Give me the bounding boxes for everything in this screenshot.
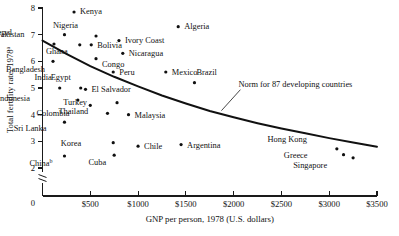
data-point-peru: Peru xyxy=(112,68,136,77)
point-label: Peru xyxy=(119,68,135,77)
x-tick-label-2000: $2000 xyxy=(223,199,244,209)
y-axis-title-superscript: a xyxy=(5,46,11,49)
point-marker xyxy=(335,147,338,150)
point-marker xyxy=(179,143,182,146)
point-marker xyxy=(90,43,93,46)
point-marker xyxy=(79,86,82,89)
point-marker xyxy=(52,42,55,45)
point-marker xyxy=(121,52,124,55)
point-marker xyxy=(342,153,345,156)
data-point-argentina: Argentina xyxy=(179,141,220,150)
point-label: Algeria xyxy=(184,22,209,31)
point-marker xyxy=(84,88,87,91)
point-marker xyxy=(177,25,180,28)
point-marker xyxy=(94,57,97,60)
point-label: Egypt xyxy=(51,73,72,82)
point-label: Nigeria xyxy=(53,21,78,30)
point-marker xyxy=(89,104,92,107)
point-label: Ghana xyxy=(46,47,68,56)
data-point-cuba: Cuba xyxy=(88,154,115,168)
y-tick-label-7: 7 xyxy=(31,30,36,40)
point-label: Mexico xyxy=(172,68,198,77)
data-point-ivory-coast: Ivory Coast xyxy=(117,36,165,45)
point-marker xyxy=(136,145,139,148)
point-marker xyxy=(164,70,167,73)
point-marker xyxy=(63,121,66,124)
point-label: Singapore xyxy=(293,161,327,170)
data-point-bolivia: Bolivia xyxy=(90,41,123,50)
y-tick-label-8: 8 xyxy=(31,3,35,13)
point-marker xyxy=(63,154,66,157)
point-label: Cuba xyxy=(88,158,106,167)
point-marker xyxy=(352,156,355,159)
data-point-nigeria: Nigeria xyxy=(53,21,98,38)
point-marker xyxy=(193,81,196,84)
y-tick-label-4: 4 xyxy=(31,110,36,120)
x-tick-label-3500: $3500 xyxy=(366,199,387,209)
point-label: Turkey xyxy=(63,98,88,107)
point-label: Colombia xyxy=(36,109,69,118)
point-label: Ivory Coast xyxy=(125,36,165,45)
y-axis-title-text: Total fertility rate, 1978a xyxy=(5,46,15,133)
point-marker xyxy=(94,34,97,37)
point-marker xyxy=(58,86,61,89)
norm-curve-annotation: Norm for 87 developing countries xyxy=(238,80,352,89)
point-label: Pakistan xyxy=(0,30,25,39)
data-point-mexico: Mexico xyxy=(164,68,197,77)
norm-annotation-leader-line xyxy=(221,90,240,111)
data-point-el-salvador: El Salvador xyxy=(84,85,131,94)
data-point-kenya: Kenya xyxy=(72,7,102,16)
point-marker xyxy=(106,112,109,115)
point-label: Malaysia xyxy=(135,111,166,120)
point-label: Argentina xyxy=(187,141,221,150)
point-label: Nicaragua xyxy=(129,49,164,58)
data-point-korea: Korea xyxy=(61,139,115,148)
point-label: Chile xyxy=(144,142,162,151)
chart-canvas: 23456780Total fertility rate, 1978a$500$… xyxy=(0,0,399,236)
point-marker xyxy=(112,141,115,144)
point-marker xyxy=(127,113,130,116)
data-point-malaysia: Malaysia xyxy=(127,111,166,120)
y-tick-label-5: 5 xyxy=(31,83,35,93)
point-marker xyxy=(51,60,54,63)
point-label: Kenya xyxy=(80,7,102,16)
point-label: Indonesia xyxy=(0,94,30,103)
point-marker xyxy=(63,33,66,36)
y-axis-origin-label: 0 xyxy=(31,198,35,208)
point-label-superscript: b xyxy=(49,158,52,164)
x-tick-label-1000: $1000 xyxy=(127,199,148,209)
data-point-china: Chinab xyxy=(29,154,66,168)
data-point-chile: Chile xyxy=(136,142,162,151)
point-label: Chinab xyxy=(29,158,52,168)
point-label: Brazil xyxy=(196,68,217,77)
point-label: India xyxy=(34,73,51,82)
data-point-algeria: Algeria xyxy=(177,22,210,31)
data-point-greece: Greece xyxy=(284,151,345,160)
point-label: El Salvador xyxy=(92,85,132,94)
x-axis-title: GNP per person, 1978 (U.S. dollars) xyxy=(146,214,274,224)
point-marker xyxy=(113,154,116,157)
point-marker xyxy=(117,39,120,42)
data-point-brazil: Brazil xyxy=(193,68,218,85)
x-tick-label-3000: $3000 xyxy=(318,199,339,209)
point-marker xyxy=(112,70,115,73)
point-label: Korea xyxy=(61,139,82,148)
point-label: Greece xyxy=(284,151,308,160)
data-point-sri-lanka: Sri Lanka xyxy=(14,121,66,134)
x-tick-label-500: $500 xyxy=(82,199,99,209)
y-axis-title: Total fertility rate, 1978a xyxy=(5,46,15,133)
point-label: Hong Kong xyxy=(268,135,308,144)
data-point-egypt: Egypt xyxy=(51,73,83,90)
y-axis-break-mark xyxy=(39,175,47,182)
point-marker xyxy=(115,101,118,104)
x-tick-label-2500: $2500 xyxy=(271,199,292,209)
data-point-nicaragua: Nicaragua xyxy=(121,49,163,58)
point-label: Bolivia xyxy=(97,41,122,50)
point-label: Sri Lanka xyxy=(14,124,47,133)
y-tick-label-3: 3 xyxy=(31,136,35,146)
data-point-congo: Congo xyxy=(94,57,124,69)
fertility-gnp-scatter-chart: 23456780Total fertility rate, 1978a$500$… xyxy=(0,0,399,236)
point-marker xyxy=(78,43,81,46)
x-tick-label-1500: $1500 xyxy=(175,199,196,209)
point-marker xyxy=(72,10,75,13)
